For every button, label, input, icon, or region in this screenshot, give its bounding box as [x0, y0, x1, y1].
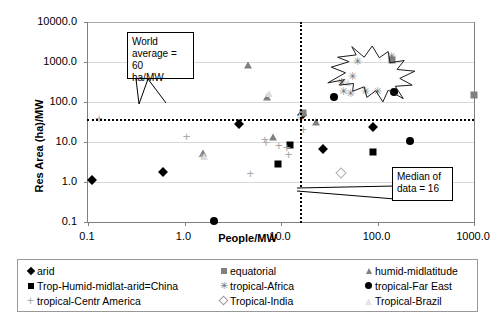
legend-marker-open-diamond-icon — [217, 295, 230, 307]
median-callout: Median of data = 16 — [392, 167, 453, 201]
scatter-chart: Res Area (ha)/MW 10000.01000.0100.010.01… — [0, 0, 495, 252]
legend-label: Tropical-Brazil — [375, 295, 442, 307]
legend-grid: aridequatorialhumid-midlatitudeTrop-Humi… — [18, 260, 477, 311]
legend-marker-plus-icon: + — [24, 295, 37, 307]
legend-item[interactable]: Tropical-India — [217, 295, 362, 307]
chart-legend: aridequatorialhumid-midlatitudeTrop-Humi… — [17, 259, 478, 312]
median-callout-leader — [0, 0, 495, 252]
legend-marker-faint-triangle-icon: ▲ — [362, 295, 375, 307]
legend-marker-filled-square-black-icon — [24, 280, 37, 292]
legend-marker-filled-circle-black-icon — [362, 280, 375, 292]
chart-root: Res Area (ha)/MW 10000.01000.0100.010.01… — [0, 0, 495, 320]
legend-item[interactable]: ▲Tropical-Brazil — [362, 295, 477, 307]
callout-line-2: data = 16 — [397, 183, 448, 195]
legend-label: humid-midlatitude — [375, 265, 458, 277]
legend-label: arid — [37, 265, 55, 277]
x-axis-title: People/MW — [0, 232, 495, 244]
legend-item[interactable]: humid-midlatitude — [362, 265, 477, 277]
legend-label: tropical-Centr America — [37, 295, 141, 307]
legend-item[interactable]: +tropical-Centr America — [24, 295, 217, 307]
callout-line-1: Median of — [397, 171, 448, 183]
legend-item[interactable]: tropical-Far East — [362, 280, 477, 292]
legend-item[interactable]: Trop-Humid-midlat-arid=China — [24, 280, 217, 292]
legend-item[interactable]: arid — [24, 265, 217, 277]
legend-marker-filled-square-gray-icon — [217, 265, 230, 277]
legend-label: tropical-Africa — [230, 280, 294, 292]
legend-marker-filled-diamond-icon — [24, 265, 37, 277]
legend-marker-asterisk-icon: ✳ — [217, 280, 230, 292]
legend-label: Tropical-India — [230, 295, 293, 307]
legend-marker-filled-triangle-gray-icon — [362, 265, 375, 277]
legend-label: Trop-Humid-midlat-arid=China — [37, 280, 178, 292]
legend-label: tropical-Far East — [375, 280, 452, 292]
legend-item[interactable]: ✳tropical-Africa — [217, 280, 362, 292]
legend-item[interactable]: equatorial — [217, 265, 362, 277]
legend-label: equatorial — [230, 265, 276, 277]
